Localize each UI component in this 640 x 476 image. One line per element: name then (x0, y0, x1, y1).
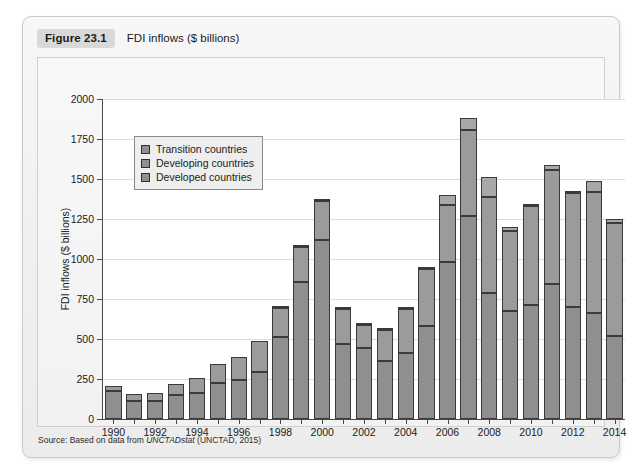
x-axis-tick (364, 419, 365, 424)
bar-segment (523, 206, 539, 304)
bar-segment (105, 391, 121, 419)
x-axis-tick (218, 419, 219, 424)
bar-segment (418, 269, 434, 326)
x-axis-tick (594, 419, 595, 424)
bar-segment (398, 309, 414, 354)
bar-segment (377, 328, 393, 330)
bar-segment (398, 353, 414, 419)
bar-segment (314, 201, 330, 239)
x-axis-tick-label: 2006 (436, 426, 459, 438)
x-axis-tick-label: 1998 (269, 426, 292, 438)
x-axis-tick-label: 2000 (311, 426, 334, 438)
source-publication: UNCTADstat (146, 435, 195, 445)
bar-segment (481, 177, 497, 196)
chart-bar (356, 99, 372, 419)
x-axis-tick (615, 419, 616, 424)
x-axis-tick (573, 419, 574, 424)
x-axis-tick-label: 2010 (519, 426, 542, 438)
bar-segment (272, 306, 288, 308)
source-prefix: Source: Based on data from (38, 435, 146, 445)
chart-bar (335, 99, 351, 419)
figure-caption: Figure 23.1 FDI inflows ($ billions) (37, 27, 239, 49)
bar-segment (606, 336, 622, 419)
x-axis-tick (510, 419, 511, 424)
bar-segment (418, 267, 434, 269)
legend-swatch-icon (141, 173, 150, 182)
legend-label: Developed countries (156, 171, 252, 183)
chart-bar (105, 99, 121, 419)
x-axis-tick-label: 2008 (478, 426, 501, 438)
x-axis-tick (489, 419, 490, 424)
chart-bar (314, 99, 330, 419)
y-axis-tick-label: 500 (76, 333, 94, 345)
bar-segment (293, 245, 309, 247)
bar-segment (335, 344, 351, 419)
bar-segment (502, 311, 518, 419)
legend-label: Transition countries (156, 143, 247, 155)
bar-segment (586, 181, 602, 192)
bar-segment (356, 323, 372, 325)
x-axis-tick (406, 419, 407, 424)
bar-segment (439, 195, 455, 205)
bar-segment (168, 384, 184, 395)
x-axis-tick (239, 419, 240, 424)
bar-segment (544, 170, 560, 284)
x-axis-tick (552, 419, 553, 424)
figure-number-badge: Figure 23.1 (37, 29, 115, 48)
bar-segment (293, 282, 309, 419)
chart-bar (523, 99, 539, 419)
y-axis-tick-label: 1250 (71, 213, 94, 225)
bar-segment (502, 231, 518, 311)
x-axis-tick-label: 2012 (561, 426, 584, 438)
y-axis-tick-label: 2000 (71, 93, 94, 105)
bar-segment (523, 204, 539, 206)
x-axis-tick (113, 419, 114, 424)
source-suffix: (UNCTAD, 2015) (195, 435, 261, 445)
bar-segment (105, 386, 121, 391)
bar-segment (272, 337, 288, 419)
bar-segment (231, 380, 247, 419)
legend-label: Developing countries (156, 157, 254, 169)
bar-segment (189, 393, 205, 419)
bar-segment (210, 383, 226, 419)
chart-legend: Transition countries Developing countrie… (134, 136, 263, 190)
y-axis-tick (97, 419, 103, 420)
chart-bar (398, 99, 414, 419)
y-axis-tick (97, 299, 103, 300)
y-axis-tick-label: 1500 (71, 173, 94, 185)
chart-bar (272, 99, 288, 419)
bar-segment (356, 325, 372, 348)
chart-bar (606, 99, 622, 419)
legend-item-transition: Transition countries (141, 142, 254, 156)
bar-segment (251, 372, 267, 419)
bar-segment (439, 262, 455, 419)
y-axis-tick (97, 339, 103, 340)
bar-segment (586, 313, 602, 419)
bar-segment (481, 293, 497, 419)
bar-segment (565, 193, 581, 307)
y-axis-tick-label: 750 (76, 293, 94, 305)
bar-segment (314, 199, 330, 201)
chart-bar (439, 99, 455, 419)
x-axis-tick (448, 419, 449, 424)
chart-bar (502, 99, 518, 419)
legend-swatch-icon (141, 145, 150, 154)
legend-item-developing: Developing countries (141, 156, 254, 170)
chart-bar (586, 99, 602, 419)
x-axis-tick (427, 419, 428, 424)
bar-segment (460, 130, 476, 216)
bar-segment (147, 401, 163, 419)
y-axis-tick (97, 99, 103, 100)
y-axis-tick (97, 259, 103, 260)
x-axis-tick (322, 419, 323, 424)
x-axis-tick (531, 419, 532, 424)
bar-segment (126, 401, 142, 419)
bar-segment (377, 330, 393, 361)
legend-item-developed: Developed countries (141, 170, 254, 184)
bar-segment (418, 326, 434, 419)
bar-segment (544, 284, 560, 419)
chart-bar (293, 99, 309, 419)
chart-bar (377, 99, 393, 419)
x-axis-tick (343, 419, 344, 424)
x-axis-tick (385, 419, 386, 424)
